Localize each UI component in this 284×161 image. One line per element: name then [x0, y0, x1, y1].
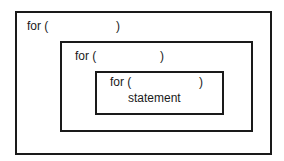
outer-for-keyword: for (	[27, 20, 48, 32]
middle-for-keyword: for (	[75, 50, 96, 62]
middle-close-paren: )	[160, 50, 164, 62]
inner-close-paren: )	[199, 76, 203, 88]
outer-close-paren: )	[116, 20, 120, 32]
statement-label: statement	[128, 92, 181, 104]
inner-for-keyword: for (	[110, 76, 131, 88]
